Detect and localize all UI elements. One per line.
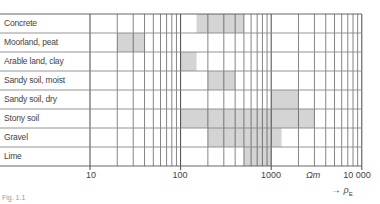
x-tick-10000: 10 000 [343,170,371,180]
resistivity-chart: Concrete Moorland, peat Arable land, cla… [0,0,380,204]
range-bar [117,33,144,52]
row-label-gravel: Gravel [4,132,28,142]
range-bar [181,52,197,71]
x-tick-100: 100 [172,170,187,180]
chart-grid [0,0,380,204]
arrow-right-icon: → [331,184,341,195]
row-label-arable: Arable land, clay [4,56,63,66]
range-bar [181,109,315,128]
row-label-moorland: Moorland, peat [4,37,58,47]
range-bar [208,71,235,90]
row-label-stony: Stony soil [4,113,39,123]
figure-caption: Fig. 1.1 [2,194,25,201]
axis-label: → ρE [331,184,353,197]
row-label-lime: Lime [4,151,22,161]
range-bar [197,14,244,33]
row-label-concrete: Concrete [4,18,37,28]
x-tick-10: 10 [86,170,96,180]
range-bar [208,128,282,147]
range-bar [271,90,298,109]
x-tick-1000: 1000 [261,170,281,180]
rho-subscript: E [349,191,353,197]
unit-label: Ωm [306,170,320,180]
row-label-sandy-dry: Sandy soil, dry [4,94,57,104]
row-label-sandy-moist: Sandy soil, moist [4,75,65,85]
